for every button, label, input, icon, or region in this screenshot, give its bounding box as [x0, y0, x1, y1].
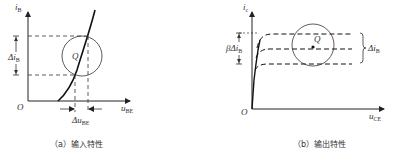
delta-ib-bracket-label: ΔiB [368, 44, 380, 54]
saturation-line [252, 40, 260, 109]
delta-ube-label: ΔuBE [72, 116, 89, 126]
beta-delta-ib-label: βΔiB [226, 44, 242, 54]
q-point-label: Q [72, 52, 79, 61]
curve-bottom [255, 64, 352, 70]
y-axis-label-ib: iB [15, 3, 22, 13]
x-axis-label-uce: uCE [369, 112, 381, 122]
input-characteristic-plot [13, 10, 130, 112]
x-axis-label-ube: uBE [121, 104, 133, 114]
caption-input-characteristic: （a）输入特性 [50, 141, 103, 149]
delta-ib-label: ΔiB [8, 53, 20, 63]
output-characteristic-plot [236, 12, 384, 109]
curve-top [257, 34, 352, 48]
curve-mid [256, 49, 352, 58]
caption-output-characteristic: （b）输出特性 [293, 141, 346, 149]
diagram-canvas [0, 0, 393, 157]
origin-label: O [241, 108, 248, 117]
brace [360, 33, 366, 63]
origin-label: O [17, 103, 24, 112]
q-circle [292, 24, 334, 66]
q-point [311, 45, 314, 48]
q-point-label: Q [314, 35, 321, 44]
y-axis-label-ic: ic [243, 3, 248, 13]
